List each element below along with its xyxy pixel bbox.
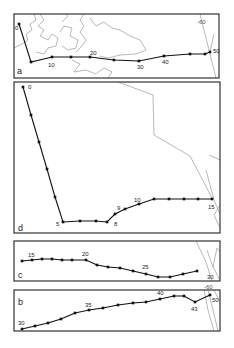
track-point [60, 318, 63, 321]
track-point [106, 221, 109, 224]
track-point [138, 60, 141, 63]
panel-a: 01020304050-60a [14, 14, 220, 78]
track-point [183, 198, 186, 201]
track-point [157, 276, 160, 279]
point-label: 0 [15, 25, 19, 31]
panel-d: 05891015d [14, 82, 220, 233]
point-label: 15 [28, 252, 35, 258]
contour-line [72, 60, 112, 78]
track-point [132, 302, 135, 305]
panel-b: 3035404350-60b [14, 284, 220, 331]
track-point [46, 168, 49, 171]
panel-letter: d [18, 223, 23, 233]
track-point [74, 312, 77, 315]
panel-letter: c [18, 270, 23, 280]
track-point [22, 86, 25, 89]
track-point [102, 307, 105, 310]
point-label: 8 [114, 221, 118, 227]
point-label: 0 [28, 84, 32, 90]
track-point [41, 258, 44, 261]
track-point [70, 56, 73, 59]
contour-line [36, 14, 58, 54]
track-point [183, 295, 186, 298]
track-point [138, 203, 141, 206]
track-point [71, 259, 74, 262]
track-point [95, 220, 98, 223]
track-line [22, 295, 210, 329]
contour-line [60, 26, 78, 50]
contour-line [90, 18, 146, 58]
point-label: 20 [82, 251, 89, 257]
track-point [114, 213, 117, 216]
contour-line [209, 155, 220, 160]
panel-frame [14, 14, 219, 78]
panel-frame [14, 290, 220, 331]
point-label: 10 [134, 197, 141, 203]
track-point [153, 198, 156, 201]
panel-c: 15202530c [14, 241, 220, 281]
track-point [182, 273, 185, 276]
track-point [51, 258, 54, 261]
track-point [119, 267, 122, 270]
track-point [173, 295, 176, 298]
point-label: 5 [56, 221, 60, 227]
track-line [23, 87, 212, 222]
track-point [79, 220, 82, 223]
track-point [51, 56, 54, 59]
track-point [163, 55, 166, 58]
track-point [30, 114, 33, 117]
track-point [85, 259, 88, 262]
contour-line [213, 266, 220, 281]
contour-line [76, 14, 86, 52]
track-point [30, 61, 33, 64]
point-label: 30 [18, 320, 25, 326]
track-point [54, 196, 57, 199]
panel-d-content [22, 82, 220, 228]
track-point [169, 276, 172, 279]
track-point [113, 59, 116, 62]
track-point [159, 298, 162, 301]
contour-line [62, 14, 68, 22]
track-point [132, 270, 135, 273]
track-point [21, 328, 24, 331]
track-point [209, 294, 212, 297]
point-label: 50 [213, 48, 220, 54]
point-label: 43 [191, 306, 198, 312]
track-point [204, 53, 207, 56]
contour-line [207, 248, 220, 267]
point-label: 40 [162, 59, 169, 65]
contour-label: -60 [204, 284, 213, 290]
track-point [88, 309, 91, 312]
track-point [96, 264, 99, 267]
contour-line [118, 82, 212, 198]
track-point [34, 325, 37, 328]
point-label: 50 [212, 297, 219, 303]
track-point [62, 221, 65, 224]
track-point [194, 301, 197, 304]
panel-a-content [14, 14, 216, 78]
track-point [197, 198, 200, 201]
track-point [209, 51, 212, 54]
track-point [47, 322, 50, 325]
panel-frame [14, 241, 220, 281]
point-label: 35 [85, 302, 92, 308]
track-point [117, 304, 120, 307]
track-point [211, 198, 214, 201]
track-point [21, 260, 24, 263]
point-label: 9 [117, 205, 121, 211]
point-label: 15 [208, 204, 215, 210]
point-label: 30 [207, 274, 214, 280]
track-point [196, 270, 199, 273]
track-point [89, 56, 92, 59]
contour-label: -60 [197, 19, 206, 25]
point-label: 20 [90, 50, 97, 56]
track-point [145, 273, 148, 276]
track-point [124, 208, 127, 211]
track-point [107, 266, 110, 269]
panel-letter: a [17, 66, 22, 76]
point-label: 30 [137, 64, 144, 70]
track-point [31, 259, 34, 262]
contour-line [214, 205, 220, 228]
track-point [189, 53, 192, 56]
point-label: 25 [142, 264, 149, 270]
